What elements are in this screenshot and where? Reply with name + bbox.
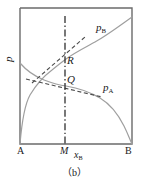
x-axis-tick-A: A — [17, 146, 24, 156]
tangent-line-Q — [26, 79, 102, 97]
curve-label-pA: pA — [103, 82, 113, 93]
point-label-R: R — [67, 55, 74, 66]
curve-label-pA-sub: A — [109, 87, 114, 94]
x-axis-label: xB — [74, 150, 83, 160]
x-axis-label-sub: B — [78, 154, 82, 161]
tangent-line-R — [32, 37, 85, 83]
curve-pB — [20, 17, 132, 144]
x-axis-tick-M: M — [60, 146, 68, 156]
curve-label-pB: pB — [96, 22, 106, 33]
curve-pA — [20, 63, 132, 144]
curve-label-pB-sub: B — [102, 27, 107, 34]
y-axis-label: p — [3, 57, 14, 63]
figure-caption: （b） — [0, 168, 149, 178]
x-axis-tick-B: B — [125, 146, 132, 156]
curve-label-pB-base: p — [96, 21, 102, 33]
figure-container: p pB pA R Q A M B xB （b） — [0, 0, 149, 188]
curve-label-pA-base: p — [103, 81, 109, 93]
point-label-Q: Q — [67, 74, 75, 85]
